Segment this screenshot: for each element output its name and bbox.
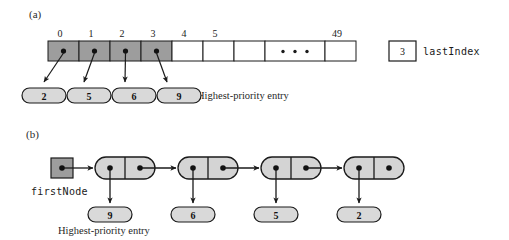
last-index-box: 3: [389, 41, 416, 61]
figure-canvas: (a) (b) 0 1 2 3 4 5 49 Highest-priority …: [0, 0, 509, 240]
array-pointer-arrow-2: [125, 53, 126, 82]
first-node-pointer-dot-icon: [59, 165, 65, 171]
list-node-0-data-dot-icon: [107, 165, 113, 171]
list-node-1-next-dot-icon: [220, 165, 226, 171]
array-entry-value-2: 6: [132, 91, 137, 102]
list-entry-value-2: 5: [274, 210, 279, 221]
list-node-0-next-dot-icon: [137, 165, 143, 171]
array-entry-ovals: 2 5 6 9: [22, 88, 201, 103]
array-cell-3-pointer-dot-icon: [154, 48, 159, 53]
array-cell-6: [234, 41, 265, 61]
diagram-vector-layer: 2 5 6 9 3: [0, 0, 509, 240]
array-cell-4: [172, 41, 203, 61]
list-node-0: [95, 157, 176, 203]
list-node-2: [261, 157, 342, 203]
list-node-2-data-dot-icon: [273, 165, 279, 171]
last-index-value: 3: [400, 46, 405, 57]
list-node-1-data-dot-icon: [190, 165, 196, 171]
list-node-3-data-dot-icon: [356, 165, 362, 171]
linked-list-structure: [51, 157, 404, 203]
list-node-3-next-null-dot-icon: [386, 165, 392, 171]
array-entry-value-1: 5: [87, 91, 92, 102]
array-entry-value-0: 2: [42, 91, 47, 102]
list-entry-value-1: 6: [191, 210, 196, 221]
array-cell-49: [325, 41, 356, 61]
list-entry-ovals: 9 6 5 2: [88, 207, 381, 222]
list-entry-value-0: 9: [108, 210, 113, 221]
list-entry-value-3: 2: [357, 210, 362, 221]
array-cell-5: [203, 41, 234, 61]
list-node-2-next-dot-icon: [303, 165, 309, 171]
array-cell-0-pointer-dot-icon: [61, 48, 66, 53]
array-cell-1-pointer-dot-icon: [92, 48, 97, 53]
array-cell-2-pointer-dot-icon: [123, 48, 128, 53]
list-node-3: [344, 157, 404, 203]
array-entry-value-3: 9: [177, 91, 182, 102]
list-node-1: [178, 157, 259, 203]
array-structure: [44, 41, 356, 82]
